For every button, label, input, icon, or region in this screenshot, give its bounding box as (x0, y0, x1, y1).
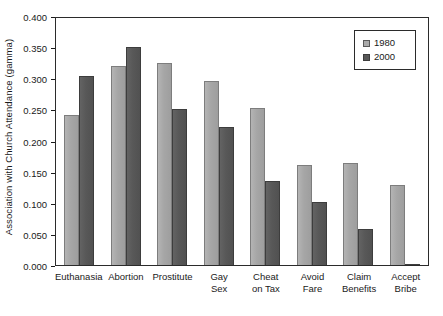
bar-chart-figure: Association with Church Attendance (gamm… (0, 0, 443, 316)
y-axis-tick-label: 0.050 (23, 230, 47, 239)
bar-group (56, 18, 103, 265)
legend-label: 1980 (374, 38, 395, 48)
bar-1980 (297, 165, 312, 265)
y-axis-tick-label: 0.150 (23, 168, 47, 177)
bar-group (289, 18, 336, 265)
x-axis-tick-label: Gay Sex (196, 270, 243, 304)
bar-1980 (64, 115, 79, 265)
y-axis-tick-label: 0.350 (23, 44, 47, 53)
legend-item-2000: 2000 (363, 50, 409, 64)
bar-group (242, 18, 289, 265)
y-axis-tick-label: 0.400 (23, 13, 47, 22)
legend-swatch-icon (363, 40, 370, 47)
y-axis-tick-label: 0.250 (23, 106, 47, 115)
y-axis-tick-labels: 0.4000.3500.3000.2500.2000.1500.1000.050… (18, 17, 51, 266)
y-axis-title: Association with Church Attendance (gamm… (0, 2, 18, 272)
legend-swatch-icon (363, 54, 370, 61)
bar-1980 (111, 66, 126, 265)
bar-group (103, 18, 150, 265)
bar-2000 (265, 181, 280, 265)
bar-2000 (405, 264, 420, 265)
legend-label: 2000 (374, 52, 395, 62)
bar-2000 (219, 127, 234, 265)
x-axis-tick-labels: EuthanasiaAbortionProstituteGay SexCheat… (55, 270, 429, 304)
chart-legend: 19802000 (354, 30, 416, 70)
legend-item-1980: 1980 (363, 36, 409, 50)
bar-1980 (343, 163, 358, 265)
bar-group (149, 18, 196, 265)
y-axis-tick-mark (51, 266, 55, 267)
y-axis-tick-label: 0.100 (23, 199, 47, 208)
bar-1980 (204, 81, 219, 265)
x-axis-tick-label: Avoid Fare (289, 270, 336, 304)
x-axis-tick-label: Euthanasia (55, 270, 103, 304)
y-axis-tick-label: 0.200 (23, 137, 47, 146)
y-axis-tick-label: 0.300 (23, 75, 47, 84)
bar-2000 (312, 202, 327, 265)
x-axis-tick-label: Accept Bribe (382, 270, 429, 304)
bar-2000 (358, 229, 373, 265)
bar-2000 (172, 109, 187, 265)
bar-1980 (157, 63, 172, 265)
y-axis-tick-label: 0.000 (23, 262, 47, 271)
x-axis-tick-label: Claim Benefits (336, 270, 383, 304)
bar-1980 (250, 108, 265, 265)
bar-2000 (79, 76, 94, 265)
x-axis-tick-label: Cheat on Tax (242, 270, 289, 304)
x-axis-tick-label: Prostitute (149, 270, 196, 304)
bar-2000 (126, 47, 141, 265)
bar-1980 (390, 185, 405, 265)
x-axis-tick-label: Abortion (103, 270, 150, 304)
bar-group (196, 18, 243, 265)
